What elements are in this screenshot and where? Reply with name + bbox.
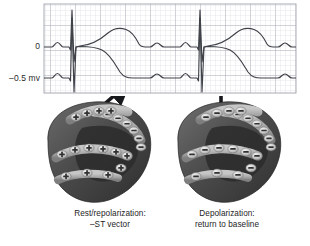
charge-plus [122, 152, 132, 160]
charge-minus [201, 113, 211, 121]
ecg-grid [44, 4, 296, 93]
charge-minus [241, 148, 251, 156]
left-caption-line2: –ST vector [43, 219, 177, 230]
charge-minus [122, 120, 132, 127]
right-heart-diagram [178, 102, 281, 203]
charge-plus [82, 109, 92, 117]
charge-minus [224, 107, 234, 115]
charge-plus [70, 146, 80, 154]
ecg-figure: 0 –0.5 mv [0, 0, 310, 246]
charge-plus [61, 173, 71, 181]
charge-plus [57, 151, 67, 159]
charge-plus [84, 144, 94, 152]
charge-minus [214, 144, 224, 152]
ecg-chart: 0 –0.5 mv [0, 0, 310, 100]
charge-minus [200, 146, 210, 154]
right-caption-line1: Depolarization: [160, 208, 294, 219]
charge-plus [111, 148, 121, 156]
left-caption-line1: Rest/repolarization: [43, 208, 177, 219]
ecg-plot-svg [0, 0, 310, 100]
charge-minus [212, 109, 222, 117]
left-heart-caption: Rest/repolarization: –ST vector [43, 208, 177, 230]
charge-minus [252, 152, 262, 160]
charge-plus [116, 164, 126, 172]
charge-minus [233, 171, 243, 179]
charge-plus [94, 107, 104, 115]
charge-minus [266, 144, 276, 151]
charge-plus [103, 171, 113, 179]
charge-minus [187, 151, 197, 159]
axis-label-neg-half-mv: –0.5 mv [1, 73, 40, 83]
charge-minus [252, 120, 262, 127]
charge-minus [129, 127, 139, 134]
axis-label-zero: 0 [24, 41, 40, 51]
charge-minus [191, 173, 201, 181]
charge-plus [106, 107, 116, 115]
charge-minus [246, 164, 256, 172]
left-heart-diagram [48, 102, 151, 203]
charge-minus [134, 135, 144, 142]
charge-plus [98, 145, 108, 153]
charge-minus [264, 135, 274, 142]
charge-minus [136, 144, 146, 151]
charge-plus [82, 169, 92, 177]
right-caption-line2: return to baseline [160, 219, 294, 230]
charge-minus [259, 127, 269, 134]
charge-minus [236, 107, 246, 115]
charge-minus [212, 169, 222, 177]
right-heart-caption: Depolarization: return to baseline [160, 208, 294, 230]
charge-minus [243, 115, 253, 122]
charge-plus [71, 113, 81, 121]
charge-minus [228, 145, 238, 153]
charge-minus [113, 115, 123, 122]
